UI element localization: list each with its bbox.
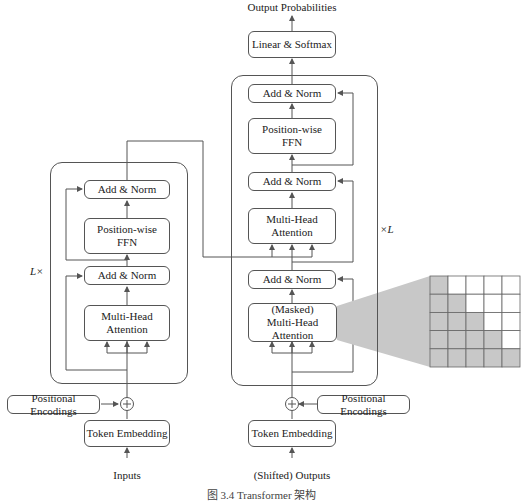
masked-label-line2: Multi-Head [267,316,318,329]
mask-cell [466,349,484,367]
mask-cell [502,294,520,312]
add-norm-label: Add & Norm [263,87,322,100]
mask-cell [502,331,520,349]
token-embedding-label: Token Embedding [87,427,168,440]
mask-cell [484,331,502,349]
token-embedding-label: Token Embedding [252,427,333,440]
decoder-token-embedding-box: Token Embedding [248,420,336,447]
linear-softmax-label: Linear & Softmax [252,38,332,51]
mask-cell [466,331,484,349]
positional-encodings-label: Positional Encodings [8,392,99,418]
mask-cell [430,349,448,367]
attention-label-line1: Multi-Head [101,310,152,323]
attention-label-line1: Multi-Head [266,213,317,226]
encoder-add-norm-bottom: Add & Norm [84,266,170,285]
figure-caption: 图 3.4 Transformer 架构 [0,486,523,502]
decoder-add-norm-top: Add & Norm [248,84,336,103]
mask-cell [430,331,448,349]
mask-cell [448,276,466,294]
mask-cell [466,294,484,312]
encoder-token-embedding-box: Token Embedding [84,420,170,447]
add-norm-label: Add & Norm [263,175,322,188]
positional-encodings-label: Positional Encodings [318,392,409,418]
encoder-ffn-box: Position-wise FFN [84,218,170,254]
output-probabilities-label: Output Probabilities [242,1,342,14]
mask-cell [502,312,520,330]
mask-cell [466,276,484,294]
encoder-input-label: Inputs [97,469,157,482]
mask-cell [484,349,502,367]
encoder-positional-encodings-box: Positional Encodings [7,395,100,414]
add-norm-label: Add & Norm [263,273,322,286]
decoder-repeat-label: ×L [380,223,394,236]
decoder-add-norm-bottom: Add & Norm [248,270,336,289]
mask-cell [484,276,502,294]
mask-cell [430,294,448,312]
decoder-input-label: (Shifted) Outputs [242,469,342,482]
ffn-label-line1: Position-wise [97,223,157,236]
decoder-ffn-box: Position-wise FFN [248,118,336,154]
attention-label-line2: Attention [271,226,313,239]
mask-cell [502,276,520,294]
encoder-repeat-label: L× [30,265,44,278]
decoder-add-norm-mid: Add & Norm [248,172,336,191]
attention-label-line2: Attention [106,323,148,336]
encoder-plus-icon [121,398,134,411]
encoder-add-norm-top: Add & Norm [84,180,170,199]
ffn-label-line1: Position-wise [262,123,322,136]
mask-cell [484,312,502,330]
encoder-attention-box: Multi-Head Attention [84,305,170,341]
masked-label-line1: (Masked) [271,303,313,316]
mask-cell [502,349,520,367]
ffn-label-line2: FFN [117,236,137,249]
mask-cell [448,294,466,312]
mask-cell [448,349,466,367]
decoder-positional-encodings-box: Positional Encodings [317,395,410,414]
mask-cell [448,312,466,330]
mask-matrix [430,276,520,367]
linear-softmax-box: Linear & Softmax [248,31,336,58]
mask-cell [430,276,448,294]
mask-cell [484,294,502,312]
masked-label-line3: Attention [272,329,314,342]
mask-cell [448,331,466,349]
add-norm-label: Add & Norm [98,183,157,196]
mask-cell [466,312,484,330]
decoder-plus-icon [286,398,299,411]
decoder-masked-attention-box: (Masked) Multi-Head Attention [248,303,337,342]
ffn-label-line2: FFN [282,136,302,149]
mask-cell [430,312,448,330]
add-norm-label: Add & Norm [98,269,157,282]
decoder-cross-attention-box: Multi-Head Attention [248,208,336,244]
